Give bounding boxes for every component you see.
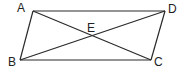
diagonals (20, 11, 165, 60)
parallelogram-diagram: A D B C E (0, 0, 186, 72)
label-b: B (8, 55, 16, 69)
side-ba (20, 11, 33, 60)
side-dc (151, 11, 165, 60)
diagonal-bd (20, 11, 165, 60)
label-a: A (17, 1, 25, 15)
label-c: C (154, 55, 163, 69)
label-d: D (168, 2, 177, 16)
label-e: E (87, 21, 95, 35)
